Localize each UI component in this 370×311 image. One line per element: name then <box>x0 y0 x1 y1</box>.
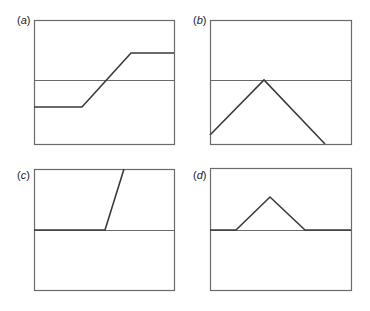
panel-c <box>34 169 175 291</box>
panel-curve <box>34 169 124 230</box>
panel-b <box>210 21 352 145</box>
figure-canvas <box>0 0 370 311</box>
panel-frame <box>211 21 352 145</box>
panel-curve <box>210 80 325 144</box>
panel-a <box>34 21 175 145</box>
panel-d <box>210 169 352 291</box>
panel-curve <box>210 197 351 230</box>
